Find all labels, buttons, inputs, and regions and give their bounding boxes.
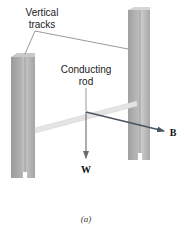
conducting-rod-label-line2: rod	[79, 76, 93, 87]
magnetic-field-vector	[86, 112, 164, 131]
left-vertical-track	[11, 53, 35, 179]
weight-vector-label: W	[81, 164, 91, 175]
vertical-tracks-leader-left	[25, 31, 35, 54]
vertical-tracks-leader-right	[35, 31, 128, 49]
vertical-tracks-label-line1: Vertical	[26, 7, 59, 18]
magnetic-field-label: B	[170, 127, 177, 138]
right-vertical-track	[128, 7, 150, 161]
vertical-tracks-label-line2: tracks	[29, 19, 56, 30]
magnetic-rod-diagram: Vertical tracks Conducting rod W B (a)	[0, 0, 185, 231]
figure-caption: (a)	[81, 214, 92, 224]
conducting-rod-label-line1: Conducting	[61, 64, 112, 75]
